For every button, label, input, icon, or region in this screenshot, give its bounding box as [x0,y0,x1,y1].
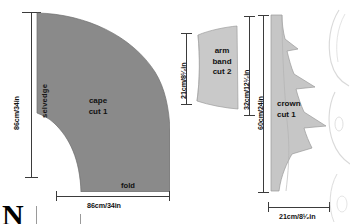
decorative-bleed-shapes [325,8,350,224]
cape-piece-cut: cut 1 [89,107,108,116]
cape-piece-name: cape [89,96,107,105]
crown-width-tick-left [268,202,269,212]
body-text-column-rule [36,206,37,224]
armband-height-label: 21cm/8¹⁄₂in [179,63,188,99]
cape-selvedge-label: selvedge [40,84,49,118]
armband-piece-name-1: arm [215,46,230,55]
cape-height-rule [31,12,32,177]
cape-width-tick-right [169,191,170,201]
cape-piece-label: cape cut 1 [78,96,118,117]
crown-height-label: 60cm/24in [256,96,265,130]
body-text-column-rule-2 [80,214,81,224]
cape-width-tick-left [56,191,57,201]
cape-width-rule [56,196,170,197]
cape-fold-label: fold [121,181,135,190]
crown-width-label: 21cm/8¹⁄₂in [279,212,315,221]
crown-width-rule [268,207,330,208]
cape-width-label: 86cm/34in [87,201,121,210]
armband-height-right-label: 32cm/12¹⁄₂in [242,70,251,110]
armband-height-tick-bottom [181,104,192,105]
body-text-drop-cap: N [2,200,24,224]
armband-height-right-tick-top [244,16,255,17]
armband-height-right-tick-bottom [244,115,255,116]
crown-piece-name: crown [277,99,301,108]
armband-piece-label: arm band cut 2 [203,46,241,78]
armband-height-tick-top [181,33,192,34]
cape-height-label: 86cm/34in [12,96,21,130]
armband-piece-name-2: band [212,57,231,66]
armband-piece-cut: cut 2 [213,67,232,76]
crown-piece-label: crown cut 1 [277,99,317,120]
pattern-layout-figure: 86cm/34in selvedge cape cut 1 fold 86cm/… [0,0,350,224]
crown-piece-cut: cut 1 [277,110,296,119]
